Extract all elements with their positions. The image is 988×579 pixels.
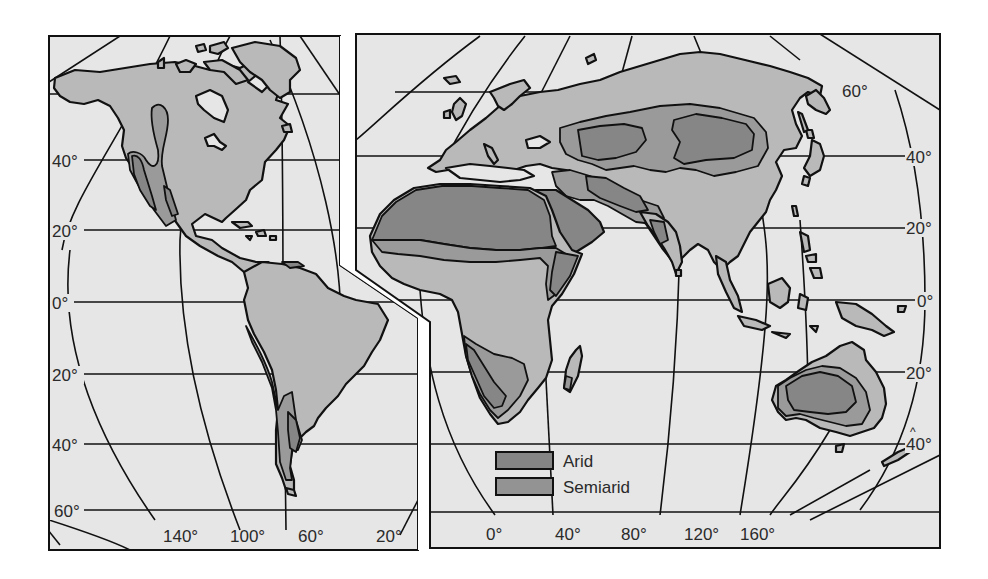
lon-label: 60°	[298, 527, 324, 546]
legend-swatch-arid	[496, 452, 553, 469]
lat-label: 40°	[52, 152, 78, 171]
lat-label: 20°	[906, 364, 932, 383]
legend-swatch-semiarid	[496, 478, 553, 495]
lon-label: 100°	[230, 527, 265, 546]
arid-regions-world-map: 40° 20° 0° 20° 40° 60° 140° 100° 60° 20°…	[0, 0, 988, 579]
lat-label: 60°	[842, 82, 868, 101]
lon-label: 20°	[376, 527, 402, 546]
lon-label: 120°	[684, 525, 719, 544]
lat-label: 0°	[52, 294, 68, 313]
lon-label: 140°	[163, 527, 198, 546]
lat-label: 60°	[54, 502, 80, 521]
lon-label: 40°	[555, 525, 581, 544]
lat-label: 40°	[52, 436, 78, 455]
legend-label-arid: Arid	[563, 452, 593, 471]
caret-mark-icon: ^	[910, 425, 916, 439]
lat-label: 0°	[917, 292, 933, 311]
lat-label: 40°	[906, 148, 932, 167]
eastern-hemisphere-panel	[356, 34, 940, 548]
lon-label: 160°	[740, 525, 775, 544]
lat-label: 20°	[906, 219, 932, 238]
lon-label: 80°	[621, 525, 647, 544]
lon-label: 0°	[486, 525, 502, 544]
lat-label: 20°	[52, 366, 78, 385]
lat-label: 20°	[52, 222, 78, 241]
legend-label-semiarid: Semiarid	[563, 478, 630, 497]
